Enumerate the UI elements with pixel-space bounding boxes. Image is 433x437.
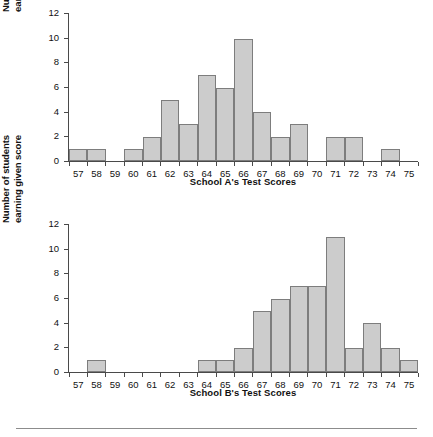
bar-74 <box>381 348 399 373</box>
histogram-bin <box>290 14 308 161</box>
y-axis-title-a: Number of students earning given score <box>0 0 40 48</box>
histogram-bin <box>106 225 124 372</box>
histogram-bin <box>216 225 234 372</box>
y-tick-label: 8 <box>37 56 59 67</box>
histogram-bin <box>400 14 418 161</box>
x-axis-ticks-b <box>69 373 418 377</box>
y-tick-label: 12 <box>37 7 59 18</box>
histogram-bin <box>216 14 234 161</box>
bar-73 <box>363 323 381 372</box>
x-tick <box>363 373 381 377</box>
histogram-bin <box>326 225 344 372</box>
bar-71 <box>326 237 344 372</box>
y-tick-label: 4 <box>37 317 59 328</box>
x-tick <box>400 162 418 166</box>
histogram-bin <box>400 225 418 372</box>
histogram-bin <box>106 14 124 161</box>
histogram-bin <box>198 14 216 161</box>
bar-69 <box>290 124 308 161</box>
bar-71 <box>326 137 344 162</box>
x-tick <box>345 162 363 166</box>
histogram-bin <box>124 225 142 372</box>
histogram-bin <box>143 225 161 372</box>
x-tick <box>308 373 326 377</box>
y-tick-label: 10 <box>37 243 59 254</box>
histogram-bin <box>271 225 289 372</box>
histogram-bin <box>198 225 216 372</box>
x-tick <box>87 162 105 166</box>
x-tick <box>106 373 124 377</box>
histogram-bin <box>308 225 326 372</box>
bar-58 <box>87 360 105 372</box>
histogram-school-a: Number of students earning given score 0… <box>0 0 433 211</box>
histogram-bin <box>363 225 381 372</box>
x-tick <box>198 373 216 377</box>
bar-64 <box>198 75 216 161</box>
bar-67 <box>253 112 271 161</box>
x-tick <box>234 373 252 377</box>
x-tick <box>87 373 105 377</box>
x-tick <box>216 162 234 166</box>
bar-68 <box>271 137 289 162</box>
histogram-bin <box>124 14 142 161</box>
x-tick <box>143 162 161 166</box>
x-tick <box>381 373 399 377</box>
x-tick <box>400 373 418 377</box>
histogram-bin <box>308 14 326 161</box>
y-tick-label: 8 <box>37 267 59 278</box>
histogram-bin <box>69 225 87 372</box>
histogram-bin <box>143 14 161 161</box>
histogram-bin <box>381 225 399 372</box>
histogram-bin <box>345 225 363 372</box>
bar-70 <box>308 286 326 372</box>
x-tick <box>326 373 344 377</box>
x-tick <box>161 162 179 166</box>
bar-62 <box>161 100 179 161</box>
bar-65 <box>216 88 234 162</box>
bar-61 <box>143 137 161 162</box>
bar-66 <box>234 39 252 162</box>
x-tick <box>345 373 363 377</box>
histogram-bin <box>179 14 197 161</box>
x-tick <box>198 162 216 166</box>
histogram-bin <box>290 225 308 372</box>
histogram-bin <box>87 14 105 161</box>
bar-72 <box>345 348 363 373</box>
histogram-bin <box>345 14 363 161</box>
bar-72 <box>345 137 363 162</box>
x-tick <box>69 373 87 377</box>
histogram-bin <box>234 225 252 372</box>
histogram-bin <box>253 14 271 161</box>
x-tick <box>216 373 234 377</box>
bar-64 <box>198 360 216 372</box>
histogram-bin <box>363 14 381 161</box>
y-tick-label: 10 <box>37 32 59 43</box>
bar-65 <box>216 360 234 372</box>
histogram-bin <box>253 225 271 372</box>
histogram-bin <box>381 14 399 161</box>
plot-area-b: 024681012 575859606162636465666768697071… <box>68 225 418 373</box>
histogram-bin <box>161 14 179 161</box>
x-tick <box>253 373 271 377</box>
y-tick-label: 6 <box>37 81 59 92</box>
x-tick <box>363 162 381 166</box>
bar-74 <box>381 149 399 161</box>
x-tick <box>69 162 87 166</box>
x-axis-title-a: School A's Test Scores <box>68 176 418 187</box>
bar-57 <box>69 149 87 161</box>
x-tick <box>161 373 179 377</box>
y-tick-label: 6 <box>37 292 59 303</box>
x-tick <box>308 162 326 166</box>
bar-series-b <box>69 225 418 372</box>
bar-63 <box>179 124 197 161</box>
histogram-school-b: Number of students earning given score 0… <box>0 211 433 422</box>
x-tick <box>179 373 197 377</box>
x-tick <box>326 162 344 166</box>
plot-area-a: 024681012 575859606162636465666768697071… <box>68 14 418 162</box>
bar-66 <box>234 348 252 373</box>
x-tick <box>143 373 161 377</box>
bar-69 <box>290 286 308 372</box>
y-tick-label: 12 <box>37 218 59 229</box>
x-tick <box>271 162 289 166</box>
x-tick <box>234 162 252 166</box>
